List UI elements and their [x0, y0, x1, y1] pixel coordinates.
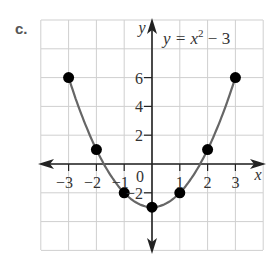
- equation-label: y = x2 − 3: [161, 27, 230, 48]
- svg-text:x: x: [253, 166, 261, 183]
- data-point: [230, 72, 241, 83]
- data-point: [202, 144, 213, 155]
- svg-text:2: 2: [135, 127, 143, 144]
- svg-text:6: 6: [135, 70, 143, 87]
- svg-text:0: 0: [136, 168, 144, 185]
- svg-text:−2: −2: [126, 185, 143, 202]
- data-point: [63, 72, 74, 83]
- svg-text:1: 1: [176, 174, 184, 191]
- svg-text:2: 2: [204, 174, 212, 191]
- svg-text:y: y: [136, 19, 146, 37]
- axis-labels: −3−2−1123642−20xy: [56, 19, 261, 202]
- parabola-graph: −3−2−1123642−20xy y = x2 − 3: [0, 0, 278, 260]
- axes: [38, 18, 266, 254]
- svg-text:−2: −2: [84, 174, 101, 191]
- data-point: [147, 202, 158, 213]
- data-point: [91, 144, 102, 155]
- svg-text:4: 4: [135, 98, 143, 115]
- svg-text:3: 3: [231, 174, 239, 191]
- svg-text:−3: −3: [56, 174, 73, 191]
